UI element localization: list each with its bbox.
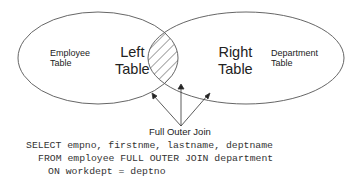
- employee-label-line1: Employee: [50, 48, 90, 58]
- right-table-label: Right Table: [218, 44, 253, 77]
- employee-label-line2: Table: [50, 58, 90, 68]
- left-table-label: Left Table: [115, 44, 150, 77]
- sql-line-3: ON workdept = deptno: [48, 165, 166, 178]
- full-outer-join-diagram: Employee Table Left Table Right Table De…: [0, 0, 357, 183]
- right-label-line1: Right: [218, 44, 253, 61]
- department-label-line2: Table: [271, 58, 318, 68]
- employee-table-label: Employee Table: [50, 48, 90, 69]
- sql-line-1: SELECT empno, firstnme, lastname, deptna…: [26, 139, 273, 152]
- left-label-line2: Table: [115, 61, 150, 78]
- left-label-line1: Left: [115, 44, 150, 61]
- department-label-line1: Department: [271, 48, 318, 58]
- right-label-line2: Table: [218, 61, 253, 78]
- sql-line-2: FROM employee FULL OUTER JOIN department: [38, 152, 273, 165]
- department-table-label: Department Table: [271, 48, 318, 69]
- full-outer-join-caption: Full Outer Join: [149, 127, 211, 138]
- join-arrows: [152, 84, 210, 126]
